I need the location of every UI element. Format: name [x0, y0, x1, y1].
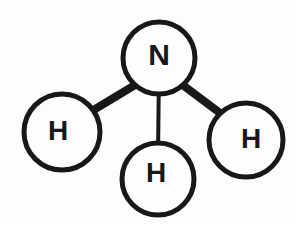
molecule-diagram-canvas: H H H N [0, 0, 298, 225]
atom-nitrogen-center: N [123, 22, 195, 94]
atom-hydrogen-left: H [24, 94, 100, 170]
nitrogen-center-label: N [148, 38, 170, 71]
hydrogen-right-label: H [241, 123, 261, 154]
atom-hydrogen-right: H [209, 103, 283, 177]
hydrogen-left-label: H [48, 115, 68, 146]
hydrogen-bottom-label: H [146, 157, 166, 188]
ammonia-structure-svg: H H H N [0, 0, 298, 225]
atom-hydrogen-bottom: H [122, 143, 194, 215]
